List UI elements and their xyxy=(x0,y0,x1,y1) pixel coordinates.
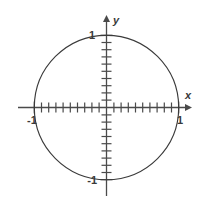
plot-background xyxy=(0,0,206,208)
unit-circle-figure: x y -1 1 1 -1 xyxy=(0,0,206,208)
x-axis-label: x xyxy=(184,89,192,101)
x-axis-tick-label-negative-one: -1 xyxy=(27,114,37,126)
y-axis-tick-label-negative-one: -1 xyxy=(87,174,97,186)
x-axis-tick-label-positive-one: 1 xyxy=(177,114,183,126)
coordinate-plane-svg: x y -1 1 1 -1 xyxy=(0,0,206,208)
y-axis-label: y xyxy=(112,14,120,26)
y-axis-tick-label-positive-one: 1 xyxy=(89,29,95,41)
